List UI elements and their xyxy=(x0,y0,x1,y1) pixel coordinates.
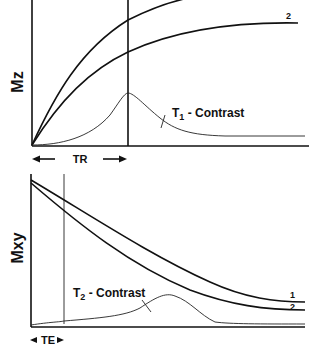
tr-label: TR xyxy=(73,153,88,165)
curve-2-label: 2 xyxy=(286,11,291,21)
bottom-panel: 1 2 T2 - Contrast Mxy TE xyxy=(9,174,305,346)
t1-contrast-label: T1 - Contrast xyxy=(172,106,244,122)
curve-1-label: 1 xyxy=(290,290,295,300)
t2-contrast-label: T2 - Contrast xyxy=(73,286,145,302)
te-label: TE xyxy=(41,334,55,346)
mz-curve-2 xyxy=(32,23,298,145)
mxy-curve-1 xyxy=(31,180,305,302)
top-panel: 2 T1 - Contrast Mz TR xyxy=(9,0,309,165)
te-left-arrow-icon xyxy=(30,337,37,343)
curve-2-label-bottom: 2 xyxy=(290,302,295,312)
tr-left-arrow-icon xyxy=(32,156,40,163)
te-right-arrow-icon xyxy=(57,337,64,343)
t1-contrast-curve xyxy=(32,93,305,145)
mz-curve-1 xyxy=(32,0,200,145)
mz-axis-label: Mz xyxy=(9,71,26,92)
tr-right-arrow-icon xyxy=(119,156,127,163)
mxy-axis-label: Mxy xyxy=(9,232,26,263)
mri-contrast-diagram: 2 T1 - Contrast Mz TR 1 2 T2 - Contrast … xyxy=(0,0,309,347)
